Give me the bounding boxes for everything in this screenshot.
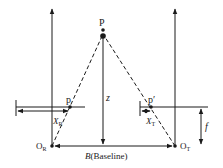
- stereo-diagram: P p p′ z XR XT OR OT f B(Baseline): [0, 0, 223, 168]
- right-image-point-dot: [149, 105, 153, 109]
- left-center-label: OR: [36, 141, 47, 152]
- left-offset-subscript: R: [59, 121, 63, 127]
- object-point-label: P: [99, 17, 105, 28]
- right-center-dot: [173, 144, 177, 148]
- left-image-point-label: p: [66, 94, 71, 105]
- left-center-subscript: R: [43, 146, 47, 152]
- object-point-dot-large: [100, 33, 106, 39]
- object-point-dot: [101, 28, 105, 32]
- right-offset-subscript: T: [152, 121, 156, 127]
- right-ray: [103, 34, 175, 146]
- right-center-subscript: T: [187, 146, 191, 152]
- left-ray: [52, 34, 103, 146]
- right-image-point-label: p′: [148, 94, 155, 105]
- baseline-text: (Baseline): [91, 151, 128, 161]
- depth-label: z: [105, 92, 110, 103]
- right-center-label: OT: [180, 141, 191, 152]
- left-offset-label: XR: [52, 116, 63, 127]
- focal-length-label: f: [205, 121, 209, 132]
- baseline-label: B(Baseline): [85, 151, 127, 161]
- left-center-dot: [50, 144, 54, 148]
- right-offset-label: XT: [145, 116, 156, 127]
- left-image-point-dot: [68, 105, 72, 109]
